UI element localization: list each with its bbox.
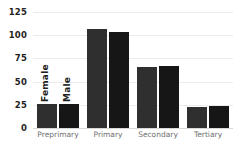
bar: [137, 67, 157, 128]
bar: [159, 66, 179, 128]
bar: [209, 106, 229, 128]
bar-group: [87, 12, 129, 128]
series-label-female: Female: [41, 64, 50, 102]
x-category-label: Tertiary: [183, 131, 233, 139]
bar-group: [137, 12, 179, 128]
y-tick-label-125: 125: [0, 8, 27, 17]
gridline-0: [33, 128, 233, 129]
bar-chart: 0255075100125 FemaleMale PreprimaryPrima…: [0, 0, 240, 154]
y-tick-label-0: 0: [0, 124, 27, 133]
y-tick-label-50: 50: [0, 78, 27, 87]
series-label-male: Male: [63, 77, 72, 102]
x-category-label: Preprimary: [33, 131, 83, 139]
y-tick-label-100: 100: [0, 31, 27, 40]
bar: [187, 107, 207, 128]
bar: [37, 104, 57, 128]
bars-layer: FemaleMale: [33, 12, 233, 128]
bar: [87, 29, 107, 128]
x-axis-categories: PreprimaryPrimarySecondaryTertiary: [33, 131, 233, 145]
bar-group: [187, 12, 229, 128]
bar: [109, 32, 129, 129]
y-tick-label-25: 25: [0, 101, 27, 110]
y-tick-label-75: 75: [0, 54, 27, 63]
x-category-label: Secondary: [133, 131, 183, 139]
bar: [59, 104, 79, 128]
x-category-label: Primary: [83, 131, 133, 139]
